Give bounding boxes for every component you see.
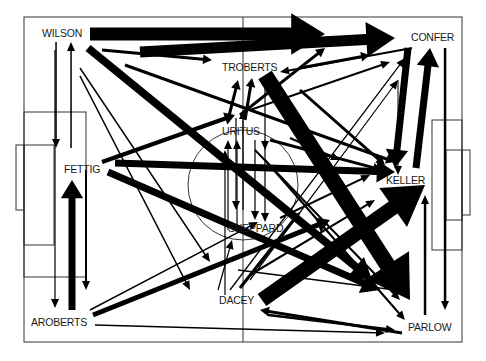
pass-arrow (413, 48, 440, 168)
pass-arrow (244, 78, 256, 120)
right-goal-area (446, 150, 462, 220)
player-label-wilson: WILSON (42, 27, 82, 39)
player-label-keller: KELLER (386, 174, 425, 186)
pass-arrow (261, 140, 269, 222)
pass-arrow (51, 50, 59, 308)
player-label-confer: CONFER (411, 31, 454, 43)
left-goal (16, 145, 24, 210)
pass-arrow (92, 217, 330, 317)
left-goal-area (24, 145, 54, 245)
pass-arrow (421, 195, 429, 315)
pass-arrow (61, 180, 83, 310)
pass-arrow (441, 48, 449, 310)
pass-arrow (227, 80, 241, 120)
pass-arrow (67, 42, 75, 148)
pass-arrow (82, 170, 90, 290)
right-goal (462, 150, 470, 215)
player-label-fettig: FETTIG (64, 163, 100, 175)
player-label-dacey: DACEY (219, 294, 254, 306)
player-label-uritus: URITUS (222, 125, 260, 137)
pass-arrow (52, 42, 60, 148)
player-label-parlow: PARLOW (408, 321, 452, 333)
right-penalty-box (432, 120, 462, 250)
pass-arrow (233, 140, 241, 225)
player-label-sheppard: SHEPPARD (228, 222, 283, 234)
pass-arrow (95, 324, 385, 337)
player-label-aroberts: AROBERTS (31, 316, 87, 328)
player-label-troberts: TROBERTS (222, 61, 277, 73)
